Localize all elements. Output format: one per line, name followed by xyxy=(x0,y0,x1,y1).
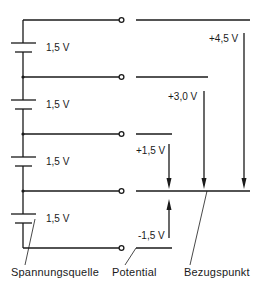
junction-dot xyxy=(21,189,24,192)
junction-dot xyxy=(21,75,24,78)
leader-spannungsquelle xyxy=(25,219,35,265)
potential-label-plus-3-0: +3,0 V xyxy=(168,91,197,102)
cell-voltage-label: 1,5 V xyxy=(46,42,69,53)
potential-label-plus-4-5: +4,5 V xyxy=(209,33,238,44)
arrow-down-icon xyxy=(202,178,207,189)
arrow-down-icon xyxy=(242,178,247,189)
caption-potential: Potential xyxy=(112,266,157,278)
cell-voltage-label: 1,5 V xyxy=(46,99,69,110)
potential-label-minus-1-5: -1,5 V xyxy=(138,230,165,241)
leader-potential xyxy=(125,248,136,265)
leader-bezugspunkt xyxy=(190,191,207,265)
cell-voltage-label: 1,5 V xyxy=(46,156,69,167)
terminal xyxy=(119,189,124,194)
caption-spannungsquelle: Spannungsquelle xyxy=(11,266,99,278)
terminal xyxy=(119,246,124,251)
arrow-down-icon xyxy=(167,178,172,189)
caption-bezugspunkt: Bezugspunkt xyxy=(184,266,250,278)
potential-label-plus-1-5: +1,5 V xyxy=(136,145,165,156)
terminal xyxy=(119,18,124,23)
terminal xyxy=(119,132,124,137)
arrow-up-icon xyxy=(167,199,172,210)
cell-voltage-label: 1,5 V xyxy=(46,213,69,224)
junction-dot xyxy=(21,132,24,135)
terminal xyxy=(119,75,124,80)
